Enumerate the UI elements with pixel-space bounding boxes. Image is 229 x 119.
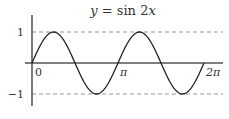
x-tick-label-2pi: 2π xyxy=(205,66,221,79)
x-tick-label-0: 0 xyxy=(35,66,42,79)
chart-title: y = sin 2x xyxy=(89,3,156,18)
chart: y = sin 2x 1 −1 0 π 2π xyxy=(0,0,229,119)
y-tick-label-minus1: −1 xyxy=(8,88,24,101)
x-tick-label-pi: π xyxy=(119,66,128,79)
y-tick-label-1: 1 xyxy=(17,26,24,39)
